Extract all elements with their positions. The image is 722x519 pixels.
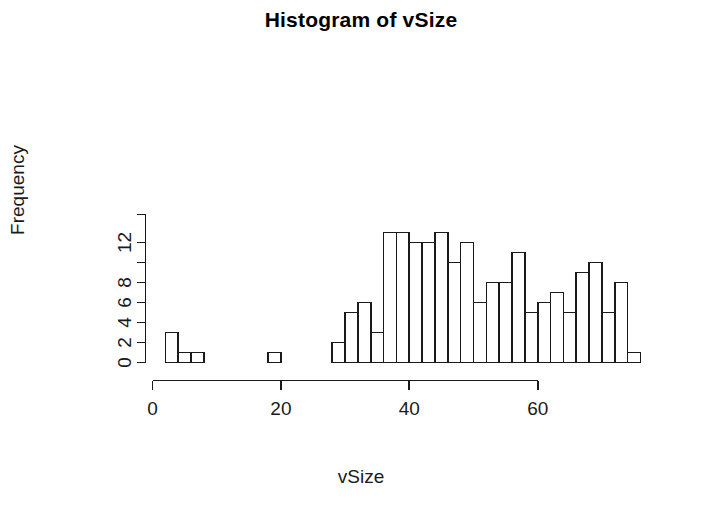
- y-tick-label: 4: [114, 317, 135, 328]
- histogram-bar: [268, 353, 281, 363]
- histogram-bar: [396, 233, 409, 363]
- histogram-bar: [628, 353, 641, 363]
- histogram-bars: [165, 233, 640, 363]
- histogram-bar: [409, 243, 422, 363]
- histogram-bar: [576, 273, 589, 363]
- histogram-bar: [525, 313, 538, 363]
- histogram-bar: [435, 233, 448, 363]
- histogram-bar: [384, 233, 397, 363]
- histogram-bar: [551, 293, 564, 363]
- y-axis: [137, 215, 146, 363]
- histogram-bar: [538, 303, 551, 363]
- histogram-bar: [615, 283, 628, 363]
- plot-area: 0246812 0204060: [0, 0, 722, 519]
- x-axis-tick-labels: 0204060: [147, 398, 548, 419]
- histogram-bar: [602, 313, 615, 363]
- x-tick-label: 40: [399, 398, 420, 419]
- histogram-bar: [499, 283, 512, 363]
- y-tick-label: 2: [114, 337, 135, 348]
- histogram-bar: [332, 343, 345, 363]
- histogram-bar: [178, 353, 191, 363]
- histogram-bar: [371, 333, 384, 363]
- x-tick-label: 60: [527, 398, 548, 419]
- histogram-bar: [589, 263, 602, 363]
- histogram-bar: [512, 253, 525, 363]
- histogram-bar: [448, 263, 461, 363]
- y-tick-label: 0: [114, 357, 135, 368]
- x-axis: [153, 381, 538, 390]
- histogram-bar: [422, 243, 435, 363]
- y-axis-tick-labels: 0246812: [114, 232, 135, 368]
- histogram-bar: [358, 303, 371, 363]
- y-tick-label: 12: [114, 232, 135, 253]
- histogram-bar: [461, 243, 474, 363]
- y-tick-label: 6: [114, 297, 135, 308]
- x-tick-label: 20: [270, 398, 291, 419]
- histogram-bar: [345, 313, 358, 363]
- histogram-bar: [191, 353, 204, 363]
- histogram-bar: [474, 303, 487, 363]
- histogram-bar: [486, 283, 499, 363]
- histogram-bar: [165, 333, 178, 363]
- histogram-bar: [563, 313, 576, 363]
- y-tick-label: 8: [114, 277, 135, 288]
- x-tick-label: 0: [147, 398, 158, 419]
- histogram-figure: Histogram of vSize Frequency vSize 02468…: [0, 0, 722, 519]
